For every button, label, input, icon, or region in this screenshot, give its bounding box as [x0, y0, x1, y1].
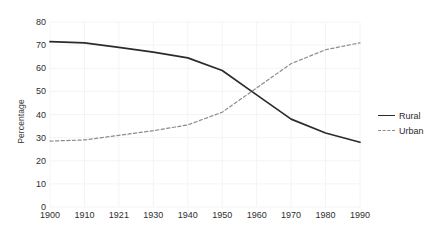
- series-line-urban: [50, 43, 360, 141]
- y-tick-label: 40: [24, 110, 46, 120]
- plot-area: [50, 22, 360, 207]
- legend-line-solid-icon: [378, 111, 395, 121]
- y-tick-label: 20: [24, 156, 46, 166]
- legend-item-rural[interactable]: Rural: [378, 108, 434, 123]
- y-tick-label: 10: [24, 179, 46, 189]
- y-tick-label: 60: [24, 63, 46, 73]
- legend-label-urban: Urban: [395, 126, 424, 136]
- legend-line-dashed-icon: [378, 126, 395, 136]
- chart-legend: Rural Urban: [378, 108, 434, 138]
- legend-label-rural: Rural: [395, 111, 421, 121]
- y-axis-tick-labels: 01020304050607080: [24, 0, 46, 243]
- y-tick-label: 70: [24, 40, 46, 50]
- y-tick-label: 50: [24, 86, 46, 96]
- line-chart: Percentage 01020304050607080 Rural Urban…: [0, 0, 434, 243]
- x-tick-label: 1990: [340, 210, 380, 220]
- legend-item-urban[interactable]: Urban: [378, 123, 434, 138]
- y-tick-label: 30: [24, 133, 46, 143]
- plot-canvas: [50, 22, 360, 207]
- y-tick-label: 80: [24, 17, 46, 27]
- series-line-rural: [50, 42, 360, 143]
